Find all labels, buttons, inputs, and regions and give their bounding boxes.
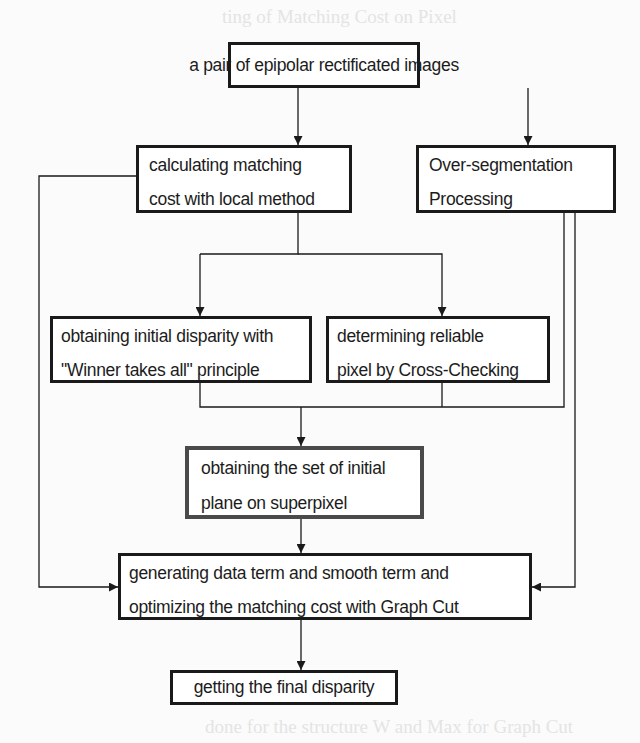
node-cross-checking-line-1: determining reliable: [337, 319, 541, 353]
node-graph-cut-line-2: optimizing the matching cost with Graph …: [129, 590, 521, 624]
node-initial-plane: obtaining the set of initial plane on su…: [185, 446, 424, 519]
node-initial-disparity: obtaining initial disparity with "Winner…: [50, 316, 312, 383]
edge-local-cost-trunk: [200, 213, 298, 254]
node-local-cost: calculating matching cost with local met…: [136, 145, 352, 213]
node-graph-cut: generating data term and smooth term and…: [118, 553, 532, 620]
node-local-cost-line-1: calculating matching: [149, 148, 339, 182]
node-input-images: a pair of epipolar rectificated images: [228, 42, 420, 88]
node-final-disparity: getting the final disparity: [170, 670, 398, 705]
node-local-cost-line-2: cost with local method: [149, 182, 339, 216]
node-initial-plane-line-2: plane on superpixel: [201, 486, 408, 521]
node-over-segmentation-line-2: Processing: [429, 182, 603, 216]
edge-over-segmentation-bypass: [532, 213, 575, 587]
node-initial-plane-line-1: obtaining the set of initial: [201, 451, 408, 486]
node-over-segmentation-line-1: Over-segmentation: [429, 148, 603, 182]
edge-to-cross-checking: [298, 254, 442, 316]
node-final-disparity-label: getting the final disparity: [194, 677, 375, 698]
node-over-segmentation: Over-segmentation Processing: [416, 145, 616, 213]
node-cross-checking: determining reliable pixel by Cross-Chec…: [326, 316, 550, 383]
node-graph-cut-line-1: generating data term and smooth term and: [129, 556, 521, 590]
node-cross-checking-line-2: pixel by Cross-Checking: [337, 353, 541, 387]
node-input-images-label: a pair of epipolar rectificated images: [189, 55, 459, 76]
node-initial-disparity-line-1: obtaining initial disparity with: [61, 319, 303, 353]
node-initial-disparity-line-2: "Winner takes all" principle: [61, 353, 303, 387]
